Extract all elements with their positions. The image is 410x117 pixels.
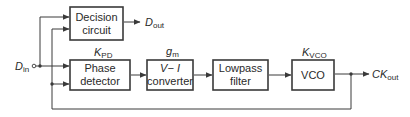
- vi-line2: converter: [147, 75, 193, 87]
- vi-line1: V− I: [160, 62, 180, 74]
- phase-detector-block: Phase detector KPD: [70, 46, 130, 90]
- lowpass-filter-block: Lowpass filter: [213, 60, 268, 90]
- din-to-decision-wire: [40, 17, 69, 66]
- clock-junction-dot: [50, 82, 53, 85]
- vi-converter-block: V− I converter gm: [147, 45, 193, 90]
- din-label: Din: [15, 60, 29, 74]
- pd-line1: Phase: [84, 62, 115, 74]
- kpd-label: KPD: [94, 46, 113, 60]
- dout-label: Dout: [145, 16, 165, 30]
- din-terminal: [32, 64, 36, 68]
- kvco-label: KVCO: [302, 46, 327, 60]
- lpf-line1: Lowpass: [219, 62, 263, 74]
- decision-line2: circuit: [82, 24, 111, 36]
- vco-block: VCO KVCO: [292, 46, 334, 90]
- vco-label: VCO: [301, 69, 325, 81]
- decision-line1: Decision: [75, 11, 117, 23]
- decision-circuit-block: Decision circuit: [70, 7, 123, 40]
- vco-output-junction-dot: [349, 72, 352, 75]
- gm-label: gm: [166, 45, 179, 59]
- ckout-label: CKout: [372, 68, 399, 82]
- cdr-block-diagram: Decision circuit Phase detector KPD V− I…: [0, 0, 410, 117]
- pd-line2: detector: [80, 75, 120, 87]
- lpf-line2: filter: [230, 75, 251, 87]
